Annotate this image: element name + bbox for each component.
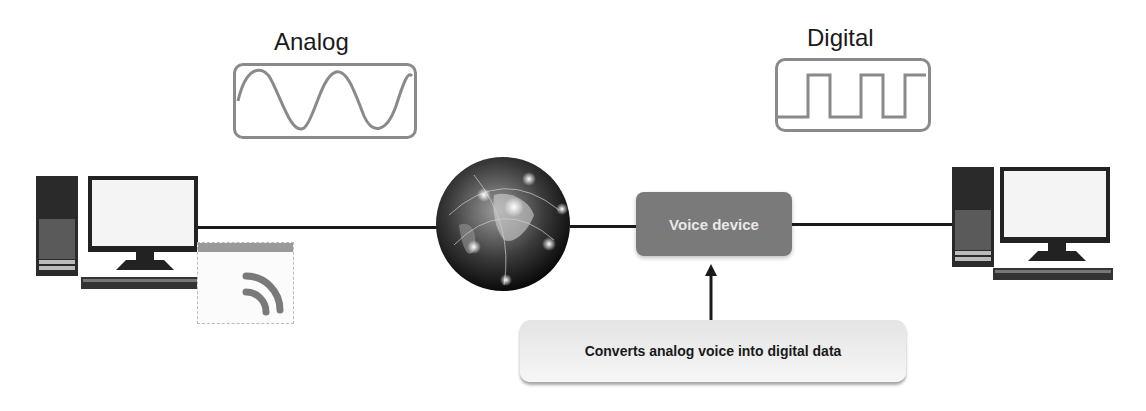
right-computer <box>948 165 1118 285</box>
analog-waveform <box>233 63 417 139</box>
left-computer <box>36 174 206 294</box>
analog-label: Analog <box>274 28 349 56</box>
sine-wave-icon <box>236 66 414 136</box>
internet-globe <box>434 155 572 293</box>
callout-text: Converts analog voice into digital data <box>585 343 842 359</box>
connection-line-middle <box>570 225 636 228</box>
wireless-window-titlebar <box>198 243 293 252</box>
digital-waveform <box>775 58 931 132</box>
wireless-window <box>197 242 294 324</box>
desktop-computer-icon <box>948 165 1118 285</box>
digital-label: Digital <box>807 24 874 52</box>
voice-device-box: Voice device <box>636 192 792 256</box>
square-wave-icon <box>778 61 928 129</box>
voice-device-label: Voice device <box>669 216 759 233</box>
conversion-callout: Converts analog voice into digital data <box>520 320 906 382</box>
connection-line-left <box>196 226 440 229</box>
desktop-computer-icon <box>36 174 206 294</box>
globe-icon <box>434 155 572 293</box>
wireless-signal-icon <box>198 252 293 322</box>
arrow-up-icon <box>704 262 718 324</box>
connection-line-right <box>792 223 952 226</box>
